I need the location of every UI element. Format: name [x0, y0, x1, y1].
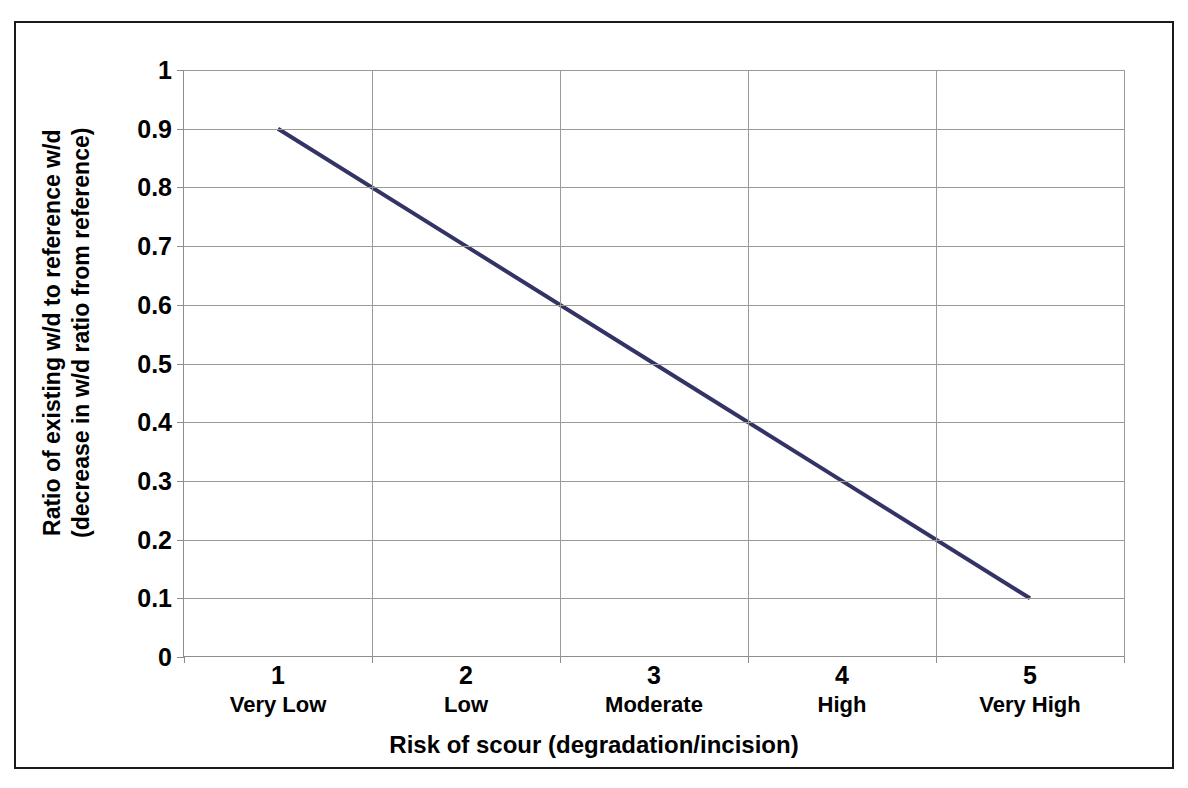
y-axis-tick — [177, 187, 184, 188]
y-axis-tick — [177, 70, 184, 71]
y-axis-tick-label: 0.5 — [137, 351, 172, 376]
x-axis-category-4: 4High — [748, 663, 936, 716]
x-axis-tick-name: Very Low — [184, 694, 372, 716]
y-axis-tick-label: 0.7 — [137, 234, 172, 259]
gridline-horizontal — [184, 422, 1124, 423]
x-axis-tick-labels: 1Very Low2Low3Moderate4High5Very High — [184, 663, 1124, 733]
gridline-vertical — [748, 70, 749, 657]
gridline-vertical — [560, 70, 561, 657]
gridline-horizontal — [184, 187, 1124, 188]
y-axis-tick — [177, 305, 184, 306]
gridline-horizontal — [184, 364, 1124, 365]
y-axis-tick-label: 0.6 — [137, 292, 172, 317]
y-axis-tick-label: 0.8 — [137, 175, 172, 200]
y-axis-tick-label: 0.2 — [137, 527, 172, 552]
x-axis-category-5: 5Very High — [936, 663, 1124, 716]
gridline-vertical — [1124, 70, 1125, 657]
x-axis-tick-name: Very High — [936, 694, 1124, 716]
x-axis-tick-name: Moderate — [560, 694, 748, 716]
y-axis-tick — [177, 246, 184, 247]
y-axis-tick — [177, 422, 184, 423]
y-axis-tick — [177, 481, 184, 482]
y-axis-tick-label: 0 — [158, 645, 172, 670]
gridline-horizontal — [184, 305, 1124, 306]
x-axis-tick-number: 1 — [184, 663, 372, 688]
x-axis-tick-number: 5 — [936, 663, 1124, 688]
y-axis-tick-label: 0.1 — [137, 586, 172, 611]
y-axis-tick — [177, 657, 184, 658]
gridline-vertical — [936, 70, 937, 657]
x-axis-title: Risk of scour (degradation/incision) — [16, 731, 1172, 759]
y-axis-tick-label: 0.3 — [137, 468, 172, 493]
y-axis-tick-label: 0.9 — [137, 116, 172, 141]
x-axis-category-2: 2Low — [372, 663, 560, 716]
chart-figure: Ratio of existing w/d to reference w/d (… — [14, 21, 1174, 769]
gridline-horizontal — [184, 598, 1124, 599]
y-axis-tick-label: 1 — [158, 58, 172, 83]
x-axis-tick-name: Low — [372, 694, 560, 716]
gridline-vertical — [372, 70, 373, 657]
x-axis-category-3: 3Moderate — [560, 663, 748, 716]
x-axis-tick-name: High — [748, 694, 936, 716]
gridline-horizontal — [184, 70, 1124, 71]
x-axis-tick-number: 2 — [372, 663, 560, 688]
gridline-horizontal — [184, 481, 1124, 482]
gridline-horizontal — [184, 246, 1124, 247]
y-axis-tick — [177, 598, 184, 599]
x-axis-tick-number: 3 — [560, 663, 748, 688]
y-axis-tick — [177, 129, 184, 130]
gridline-horizontal — [184, 540, 1124, 541]
y-axis-tick — [177, 540, 184, 541]
gridline-horizontal — [184, 129, 1124, 130]
x-axis-tick — [1124, 657, 1125, 663]
x-axis-category-1: 1Very Low — [184, 663, 372, 716]
x-axis-tick-number: 4 — [748, 663, 936, 688]
y-axis-tick-labels: 10.90.80.70.60.50.40.30.20.10 — [16, 70, 172, 657]
y-axis-tick-label: 0.4 — [137, 410, 172, 435]
y-axis-tick — [177, 364, 184, 365]
plot-area — [184, 70, 1124, 657]
